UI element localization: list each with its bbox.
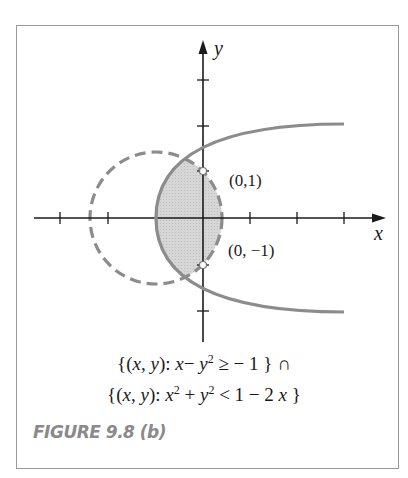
- y-axis-label: y: [212, 37, 223, 60]
- plot-area: y x (0,1) (0, −1): [0, 0, 408, 478]
- open-point-bottom: [200, 262, 207, 269]
- x-axis-label: x: [373, 222, 383, 244]
- point-label-top: (0,1): [229, 171, 262, 190]
- open-point-top: [200, 168, 207, 175]
- point-label-bottom: (0, −1): [228, 241, 274, 260]
- figure-label: FIGURE 9.8 (b): [33, 422, 166, 442]
- caption-line-2: {(x, y): x2 + y2 < 1 − 2 x }: [0, 383, 408, 406]
- caption-line-1: {(x, y): x− y2 ≥ − 1 } ∩: [0, 352, 408, 375]
